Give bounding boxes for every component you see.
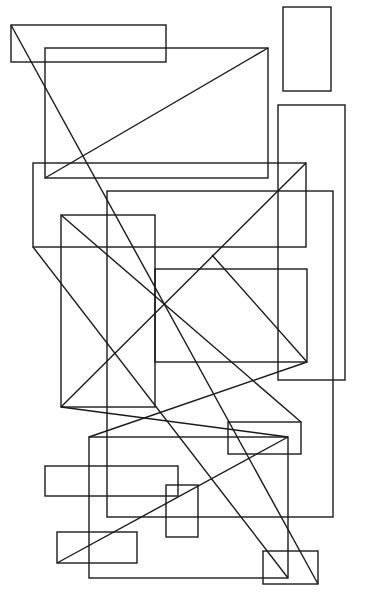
rectangle-r4 xyxy=(278,105,345,380)
rectangle-r10 xyxy=(89,437,288,578)
line-l5 xyxy=(61,215,301,422)
diagram-canvas xyxy=(0,0,371,611)
rectangle-r12 xyxy=(166,485,198,537)
rectangle-r1 xyxy=(11,25,166,62)
rectangle-r5 xyxy=(33,163,306,247)
line-l8 xyxy=(57,437,288,563)
line-l9 xyxy=(212,255,307,362)
rectangle-r13 xyxy=(57,532,137,563)
lines-group xyxy=(11,25,318,584)
rectangle-r7 xyxy=(61,215,155,407)
rectangle-r3 xyxy=(283,7,331,91)
rectangle-r11 xyxy=(45,466,178,496)
line-l4 xyxy=(61,163,306,407)
line-l2 xyxy=(45,48,268,178)
